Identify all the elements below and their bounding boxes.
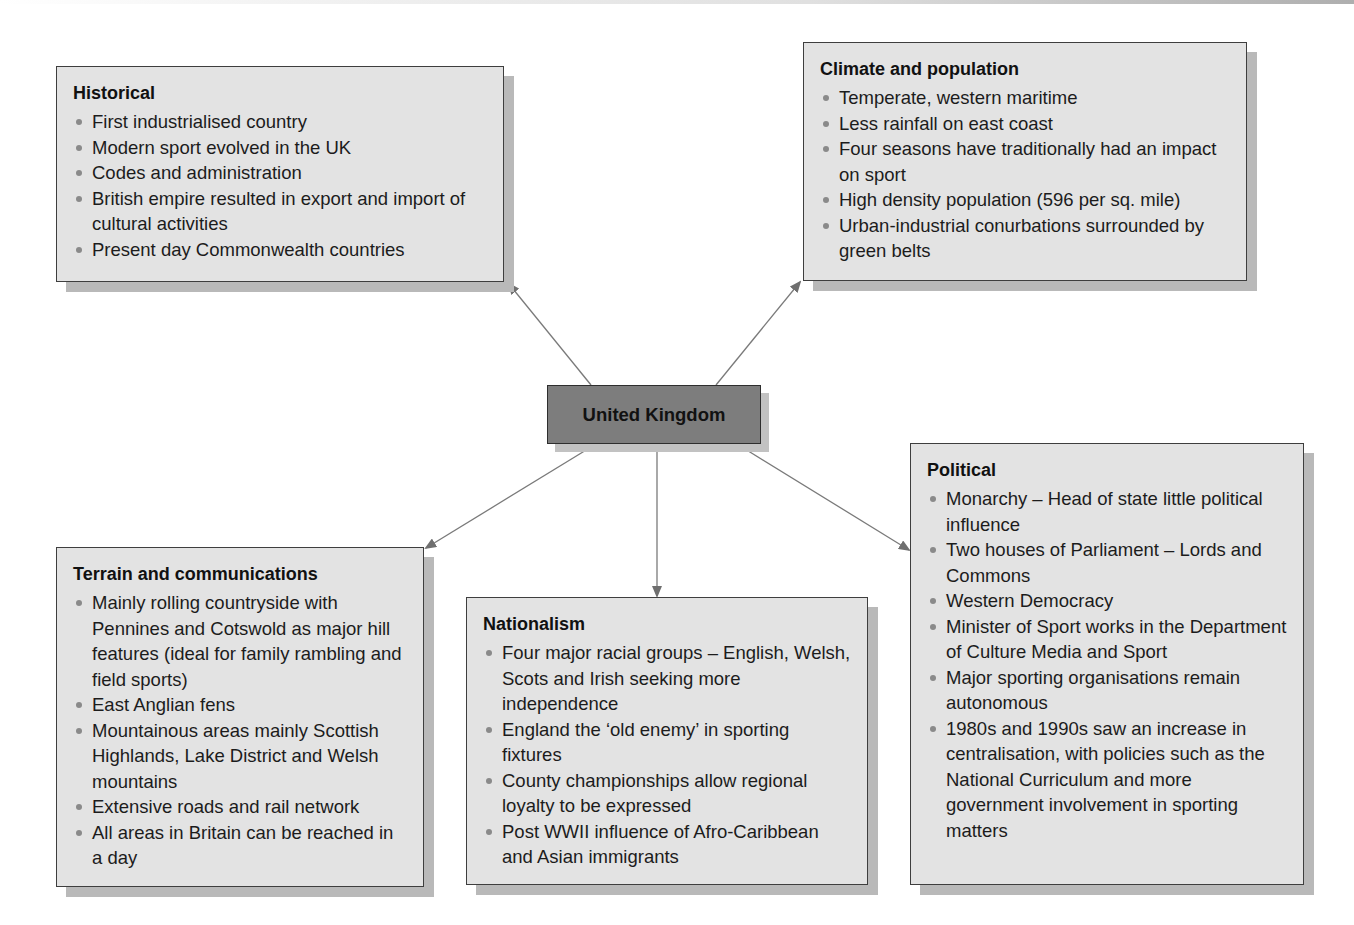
list-item: Less rainfall on east coast	[820, 111, 1230, 137]
list-item: High density population (596 per sq. mil…	[820, 187, 1230, 213]
list-item: Urban-industrial conurbations surrounded…	[820, 213, 1230, 264]
list-item: Two houses of Parliament – Lords and Com…	[927, 537, 1287, 588]
bullet-icon	[930, 675, 936, 681]
bullet-icon	[76, 804, 82, 810]
bullet-list: Mainly rolling countryside with Pennines…	[73, 590, 407, 871]
node-title: Historical	[73, 81, 487, 105]
bullet-list: Four major racial groups – English, Wels…	[483, 640, 851, 870]
list-item: Major sporting organisations remain auto…	[927, 665, 1287, 716]
node-title: Nationalism	[483, 612, 851, 636]
arrow-to-terrain	[426, 444, 596, 548]
list-item: Four seasons have traditionally had an i…	[820, 136, 1230, 187]
list-item: Four major racial groups – English, Wels…	[483, 640, 851, 717]
bullet-icon	[486, 778, 492, 784]
arrow-to-political	[737, 444, 909, 550]
list-item: Present day Commonwealth countries	[73, 237, 487, 263]
bullet-icon	[76, 170, 82, 176]
bullet-icon	[76, 600, 82, 606]
list-item: Mountainous areas mainly Scottish Highla…	[73, 718, 407, 795]
bullet-icon	[486, 829, 492, 835]
bullet-icon	[76, 728, 82, 734]
list-item: Monarchy – Head of state little politica…	[927, 486, 1287, 537]
list-item: All areas in Britain can be reached in a…	[73, 820, 407, 871]
top-rule-divider	[0, 0, 1354, 4]
bullet-icon	[930, 726, 936, 732]
node-title: Terrain and communications	[73, 562, 407, 586]
bullet-icon	[930, 496, 936, 502]
bullet-icon	[823, 121, 829, 127]
bullet-icon	[486, 650, 492, 656]
list-item: Western Democracy	[927, 588, 1287, 614]
bullet-list: First industrialised country Modern spor…	[73, 109, 487, 262]
arrow-to-historical	[509, 284, 591, 385]
list-item: 1980s and 1990s saw an increase in centr…	[927, 716, 1287, 844]
bullet-icon	[76, 702, 82, 708]
bullet-icon	[823, 146, 829, 152]
list-item: Post WWII influence of Afro-Caribbean an…	[483, 819, 851, 870]
bullet-icon	[76, 247, 82, 253]
bullet-icon	[930, 624, 936, 630]
node-title: Climate and population	[820, 57, 1230, 81]
bullet-icon	[76, 119, 82, 125]
node-climate-and-population: Climate and population Temperate, wester…	[803, 42, 1247, 281]
list-item: England the ‘old enemy’ in sporting fixt…	[483, 717, 851, 768]
node-historical: Historical First industrialised country …	[56, 66, 504, 282]
bullet-icon	[930, 547, 936, 553]
list-item: British empire resulted in export and im…	[73, 186, 487, 237]
bullet-icon	[823, 197, 829, 203]
arrow-to-climate	[716, 282, 800, 385]
center-node-united-kingdom: United Kingdom	[547, 385, 761, 444]
list-item: Extensive roads and rail network	[73, 794, 407, 820]
bullet-icon	[76, 830, 82, 836]
list-item: East Anglian fens	[73, 692, 407, 718]
node-terrain-and-communications: Terrain and communications Mainly rollin…	[56, 547, 424, 887]
list-item: County championships allow regional loya…	[483, 768, 851, 819]
list-item: Minister of Sport works in the Departmen…	[927, 614, 1287, 665]
node-nationalism: Nationalism Four major racial groups – E…	[466, 597, 868, 885]
list-item: First industrialised country	[73, 109, 487, 135]
bullet-icon	[486, 727, 492, 733]
list-item: Temperate, western maritime	[820, 85, 1230, 111]
bullet-icon	[76, 145, 82, 151]
bullet-icon	[823, 95, 829, 101]
node-political: Political Monarchy – Head of state littl…	[910, 443, 1304, 885]
bullet-list: Monarchy – Head of state little politica…	[927, 486, 1287, 843]
bullet-icon	[930, 598, 936, 604]
center-label: United Kingdom	[583, 404, 726, 426]
list-item: Codes and administration	[73, 160, 487, 186]
bullet-list: Temperate, western maritime Less rainfal…	[820, 85, 1230, 264]
bullet-icon	[76, 196, 82, 202]
list-item: Modern sport evolved in the UK	[73, 135, 487, 161]
node-title: Political	[927, 458, 1287, 482]
bullet-icon	[823, 223, 829, 229]
list-item: Mainly rolling countryside with Pennines…	[73, 590, 407, 692]
